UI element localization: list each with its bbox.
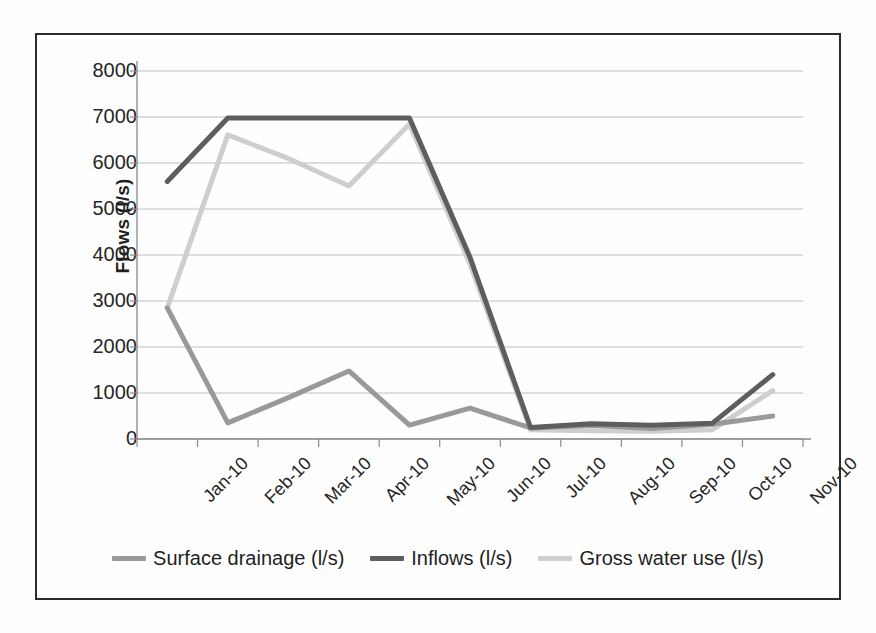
x-tick-label: Aug-10: [624, 453, 680, 509]
legend-label: Gross water use (l/s): [579, 547, 763, 570]
x-tick-label: May-10: [443, 453, 500, 510]
x-tick-label: Jun-10: [502, 453, 556, 507]
legend-label: Surface drainage (l/s): [153, 547, 344, 570]
x-axis-tick-labels: Jan-10Feb-10Mar-10Apr-10May-10Jun-10Jul-…: [37, 35, 839, 598]
legend-swatch-icon: [538, 556, 572, 561]
x-tick-label: Jan-10: [199, 453, 253, 507]
legend-swatch-icon: [112, 556, 146, 561]
chart-figure: Flows (l/s) 8000700060005000400030002000…: [0, 0, 876, 633]
legend-label: Inflows (l/s): [411, 547, 512, 570]
x-tick-label: Feb-10: [261, 453, 316, 508]
legend-entry[interactable]: Surface drainage (l/s): [112, 547, 344, 570]
chart-frame: Flows (l/s) 8000700060005000400030002000…: [35, 33, 841, 600]
chart-legend: Surface drainage (l/s)Inflows (l/s)Gross…: [37, 547, 839, 570]
x-tick-label: Nov-10: [806, 453, 862, 509]
legend-entry[interactable]: Inflows (l/s): [370, 547, 512, 570]
x-tick-label: Mar-10: [321, 453, 376, 508]
x-tick-label: Jul-10: [561, 453, 611, 503]
x-tick-label: Apr-10: [381, 453, 434, 506]
legend-entry[interactable]: Gross water use (l/s): [538, 547, 763, 570]
x-tick-label: Oct-10: [744, 453, 797, 506]
legend-swatch-icon: [370, 556, 404, 561]
x-tick-label: Sep-10: [685, 453, 741, 509]
